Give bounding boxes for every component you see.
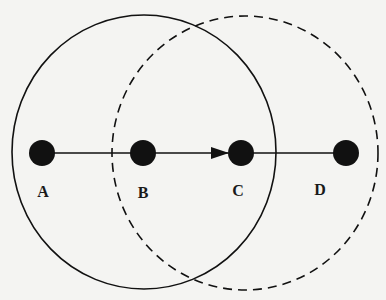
node-b [130, 140, 156, 166]
diagram-canvas: ABCD [0, 0, 386, 300]
node-d [333, 140, 359, 166]
network-diagram: ABCD [0, 0, 386, 300]
node-labels: ABCD [37, 181, 326, 201]
node-label-b: B [138, 184, 149, 201]
node-label-a: A [37, 183, 49, 200]
node-label-d: D [314, 181, 326, 198]
node-c [228, 140, 254, 166]
node-a [29, 140, 55, 166]
node-label-c: C [232, 182, 244, 199]
